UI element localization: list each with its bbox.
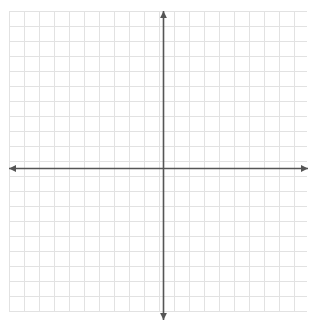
grid-lines-horizontal	[9, 12, 307, 312]
coordinate-grid-svg	[0, 0, 317, 333]
figure-background	[0, 0, 317, 333]
coordinate-plane-figure	[0, 0, 317, 333]
